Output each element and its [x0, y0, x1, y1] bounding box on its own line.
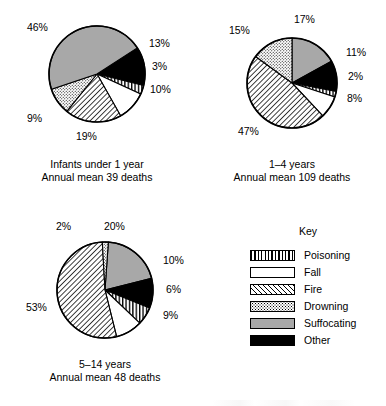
caption-title: 1–4 years: [217, 158, 367, 171]
key-entry-suffocating: Suffocating: [250, 315, 386, 332]
caption-subtitle: Annual mean 39 deaths: [22, 171, 172, 184]
key-entry-fire: Fire: [250, 281, 386, 298]
pie-chart-infants-under-1-year: [46, 23, 148, 125]
key-title: Key: [252, 225, 364, 237]
scan-artifact: [0, 400, 386, 406]
pie-value-label-drowning: 9%: [27, 113, 42, 124]
pie-value-label-other: 11%: [346, 47, 366, 58]
pie-value-label-other: 10%: [163, 255, 184, 266]
key-swatch-fall: [250, 267, 295, 278]
pie-value-label-poisoning: 2%: [348, 71, 363, 82]
key-swatch-drowning: [250, 301, 295, 312]
key-entry-poisoning: Poisoning: [250, 247, 386, 264]
pie-group-1-4-years: [244, 35, 340, 131]
pie-chart-5-14-years: [54, 239, 156, 341]
key-swatch-poisoning: [250, 250, 295, 261]
chart-caption-infants-under-1-year: Infants under 1 yearAnnual mean 39 death…: [22, 158, 172, 183]
key-label-drowning: Drowning: [304, 301, 348, 312]
pie-value-label-other: 13%: [149, 38, 170, 49]
pie-value-label-drowning: 2%: [56, 221, 71, 232]
chart-caption-5-14-years: 5–14 yearsAnnual mean 48 deaths: [30, 358, 180, 383]
key-label-fall: Fall: [304, 267, 321, 278]
pie-chart-1-4-years: [244, 35, 340, 131]
pie-value-label-fall: 8%: [347, 93, 362, 104]
pie-value-label-poisoning: 6%: [166, 284, 181, 295]
pie-value-label-fall: 9%: [163, 310, 178, 321]
chart-caption-1-4-years: 1–4 yearsAnnual mean 109 deaths: [217, 158, 367, 183]
figure-root: 13%3%10%19%9%46%17%11%2%8%47%15%20%10%6%…: [0, 0, 386, 406]
caption-title: Infants under 1 year: [22, 158, 172, 171]
pie-value-label-poisoning: 3%: [152, 61, 167, 72]
key-entry-drowning: Drowning: [250, 298, 386, 315]
pie-value-label-fall: 10%: [150, 84, 171, 95]
pie-value-label-fire: 47%: [238, 126, 259, 137]
key-swatch-suffocating: [250, 318, 295, 329]
pie-group-5-14-years: [54, 239, 156, 341]
key-panel: Key PoisoningFallFireDrowningSuffocating…: [250, 225, 386, 349]
pie-value-label-suffocating: 20%: [104, 221, 125, 232]
key-swatch-other: [250, 335, 295, 346]
key-entry-other: Other: [250, 332, 386, 349]
pie-value-label-fire: 53%: [26, 302, 47, 313]
caption-subtitle: Annual mean 109 deaths: [217, 171, 367, 184]
key-entry-fall: Fall: [250, 264, 386, 281]
key-swatch-fire: [250, 284, 295, 295]
key-label-suffocating: Suffocating: [304, 318, 356, 329]
key-entry-list: PoisoningFallFireDrowningSuffocatingOthe…: [250, 247, 386, 349]
caption-subtitle: Annual mean 48 deaths: [30, 371, 180, 384]
caption-title: 5–14 years: [30, 358, 180, 371]
key-label-fire: Fire: [304, 284, 322, 295]
key-label-other: Other: [304, 335, 330, 346]
pie-value-label-suffocating: 17%: [294, 14, 315, 25]
key-label-poisoning: Poisoning: [304, 250, 350, 261]
pie-value-label-suffocating: 46%: [27, 22, 48, 33]
pie-value-label-fire: 19%: [76, 131, 97, 142]
pie-group-infants-under-1-year: [46, 23, 148, 125]
pie-value-label-drowning: 15%: [229, 25, 250, 36]
